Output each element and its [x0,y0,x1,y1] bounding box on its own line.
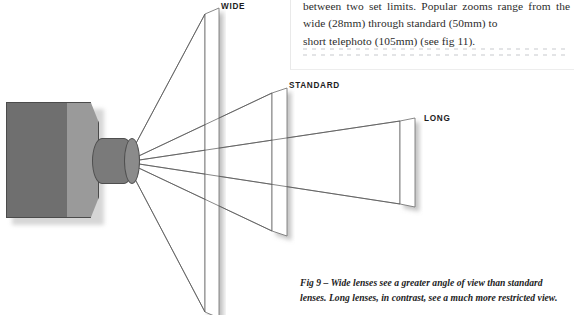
camera-lens-front-element [124,138,140,184]
figure-caption: Fig 9 – Wide lenses see a greater angle … [300,276,572,305]
label-long: LONG [424,114,450,123]
caption-line-1: Fig 9 – Wide lenses see a greater angle … [300,276,572,291]
caption-line-2: lenses. Long lenses, in contrast, see a … [300,291,572,306]
label-standard: STANDARD [289,81,340,90]
figure-page: between two set limits. Popular zooms ra… [0,0,574,315]
label-wide: WIDE [221,2,245,11]
camera-body [6,102,68,218]
camera-illustration [6,102,132,224]
